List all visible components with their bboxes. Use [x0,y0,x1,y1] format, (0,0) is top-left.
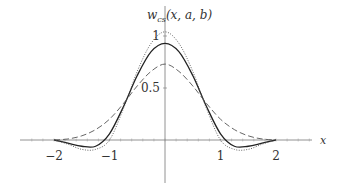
y-tick-label: 1 [152,29,160,43]
x-axis-label: x [320,134,327,147]
x-tick-label: −1 [101,149,119,163]
y-axis-label: wcs(x, a, b) [147,8,212,24]
y-tick-label: 0.5 [141,81,160,95]
axes [20,6,312,183]
plot-area: −2−1120.51 wcs(x, a, b) x [0,0,342,187]
x-tick-label: −2 [45,149,63,163]
x-tick-label: 2 [272,149,280,163]
tick-labels: −2−1120.51 [45,29,280,163]
x-tick-label: 1 [217,149,225,163]
